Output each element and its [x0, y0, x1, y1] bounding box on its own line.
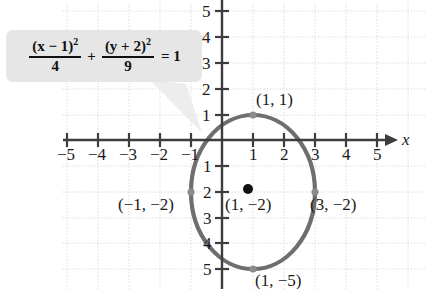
y-tick-label-2: 2: [202, 81, 211, 98]
right-vertex-label: (3, −2): [310, 196, 356, 213]
center-label: (1, −2): [225, 196, 271, 213]
callout-tail: [150, 80, 202, 133]
y-tick-label-neg4: 4: [203, 235, 212, 252]
point-left-vertex: [187, 188, 194, 195]
point-center: [243, 184, 253, 194]
x-tick-label-5: 5: [373, 146, 382, 163]
equation-rhs: = 1: [161, 48, 181, 65]
y-tick-label-1: 1: [202, 107, 211, 124]
first-numerator-exponent: 2: [73, 36, 78, 47]
first-numerator: (x − 1)2: [29, 37, 81, 56]
y-tick-label-3: 3: [202, 55, 211, 72]
equation-callout-box: (x − 1)2 4 + (y + 2)2 9 = 1: [6, 30, 202, 82]
x-tick-label-1: 1: [249, 146, 258, 163]
first-fraction: (x − 1)2 4: [29, 37, 81, 75]
left-vertex-label: (−1, −2): [118, 196, 174, 213]
x-tick-label-3: 3: [311, 146, 320, 163]
second-fraction: (y + 2)2 9: [102, 37, 154, 75]
point-top-vertex: [249, 111, 256, 118]
x-tick-label-neg1: −1: [181, 146, 199, 163]
y-tick-label-neg5: 5: [203, 261, 212, 278]
bottom-vertex-label: (1, −5): [255, 272, 301, 289]
x-tick-label-neg3: −3: [119, 146, 137, 163]
ellipse-figure: (x − 1)2 4 + (y + 2)2 9 = 1 −5 −4 −3 −2 …: [0, 0, 425, 289]
y-tick-label-neg3: 3: [203, 210, 212, 227]
x-tick-label-4: 4: [342, 146, 351, 163]
x-axis-name-label: x: [402, 131, 410, 148]
second-numerator-exponent: 2: [146, 36, 151, 47]
y-tick-label-5: 5: [202, 3, 211, 20]
second-denominator: 9: [121, 58, 135, 75]
y-tick-label-4: 4: [202, 29, 211, 46]
plus-operator: +: [87, 48, 96, 65]
x-tick-label-2: 2: [280, 146, 289, 163]
second-numerator: (y + 2)2: [102, 37, 154, 56]
y-tick-label-neg1: 1: [203, 158, 212, 175]
y-tick-label-neg2: 2: [203, 184, 212, 201]
ellipse-equation: (x − 1)2 4 + (y + 2)2 9 = 1: [27, 37, 180, 75]
first-denominator: 4: [49, 58, 63, 75]
x-tick-label-neg5: −5: [57, 146, 75, 163]
x-tick-label-neg2: −2: [150, 146, 168, 163]
top-vertex-label: (1, 1): [256, 91, 293, 108]
x-tick-label-neg4: −4: [88, 146, 106, 163]
y-axis: [215, 0, 229, 289]
